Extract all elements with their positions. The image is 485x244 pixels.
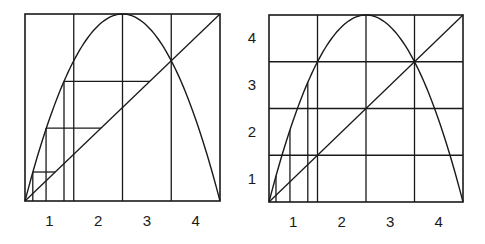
x-tick-label: 1: [45, 212, 53, 229]
x-tick-label: 2: [94, 212, 102, 229]
panel-left: 1234: [25, 14, 220, 229]
x-tick-label: 4: [435, 213, 443, 230]
x-tick-label: 3: [386, 213, 394, 230]
cobweb-figure: 123412341234: [0, 0, 485, 244]
y-tick-label: 3: [248, 76, 256, 93]
y-tick-label: 2: [248, 123, 256, 140]
x-tick-label: 1: [289, 213, 297, 230]
y-tick-label: 1: [248, 170, 256, 187]
y-tick-label: 4: [248, 29, 256, 46]
x-tick-label: 4: [191, 212, 199, 229]
panel-right: 12341234: [248, 15, 463, 230]
x-tick-label: 3: [143, 212, 151, 229]
x-tick-label: 2: [338, 213, 346, 230]
